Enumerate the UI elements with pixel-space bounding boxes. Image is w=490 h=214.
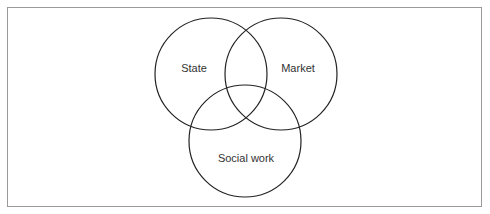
market-circle	[225, 18, 337, 130]
state-circle	[155, 18, 267, 130]
market-label: Market	[281, 62, 315, 74]
venn-diagram	[0, 0, 490, 214]
state-label: State	[181, 62, 207, 74]
social-work-circle	[189, 85, 301, 197]
social-work-label: Social work	[218, 152, 274, 164]
